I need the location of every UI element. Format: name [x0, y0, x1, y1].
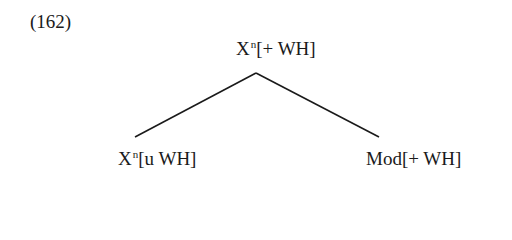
left-features: [u WH]: [138, 148, 196, 169]
left-branch-line: [135, 73, 256, 137]
left-superscript: n: [133, 148, 139, 160]
right-category: Mod: [366, 148, 402, 169]
tree-right-child-node: Mod[+ WH]: [366, 149, 461, 168]
right-branch-line: [256, 73, 379, 137]
tree-left-child-node: Xn[u WH]: [118, 149, 196, 168]
right-features: [+ WH]: [402, 148, 461, 169]
left-category: X: [118, 148, 132, 169]
